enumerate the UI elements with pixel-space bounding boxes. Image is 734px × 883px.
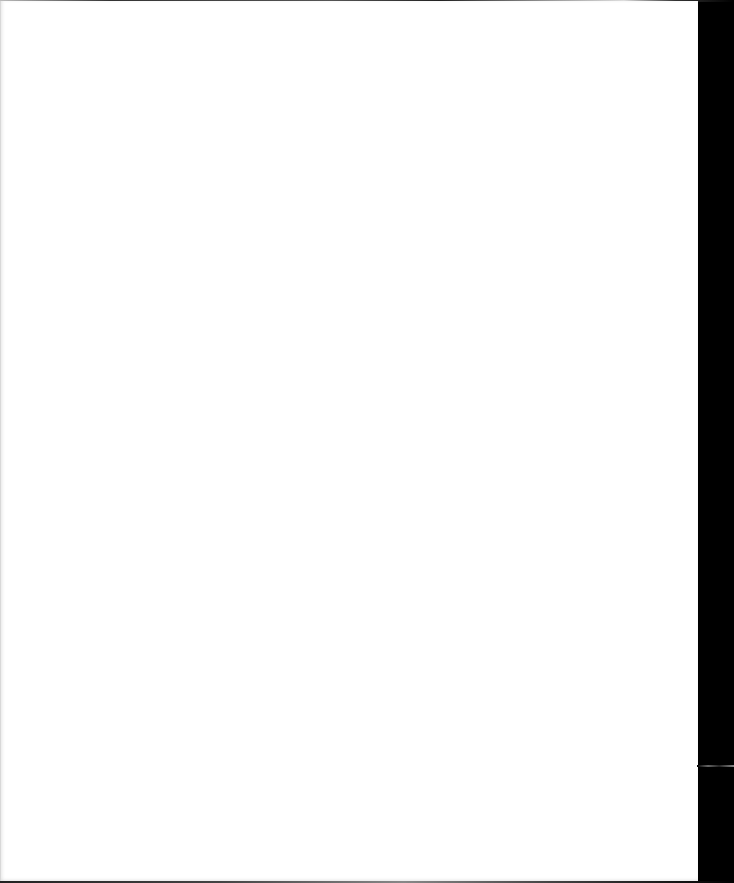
blank-page xyxy=(0,1,698,881)
scanner-edge-mark xyxy=(697,765,734,767)
